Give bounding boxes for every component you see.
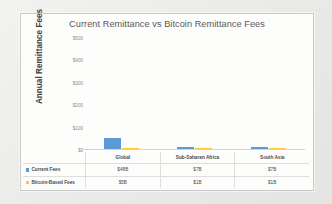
chart-data-table: Global Sub-Saharan Africa South Asia Cur… — [23, 152, 309, 186]
yellow-square-marker — [26, 181, 29, 184]
table-cell-current-southasia: $7B — [234, 164, 309, 175]
table-cell-bitcoin-ssa: $1B — [160, 177, 235, 188]
plot-area: $500$400$300$200$100$0 — [85, 38, 305, 150]
chart-frame: Current Remittance vs Bitcoin Remittance… — [20, 13, 314, 191]
y-axis-tick-300: $300 — [57, 80, 83, 85]
table-header-category-2: South Asia — [234, 152, 309, 163]
table-cell-bitcoin-global: $5B — [85, 177, 160, 188]
table-row: Current Fees $48B $7B $7B — [23, 163, 309, 175]
y-axis-tick-500: $500 — [57, 36, 83, 41]
chart-title: Current Remittance vs Bitcoin Remittance… — [21, 19, 313, 29]
table-cell-bitcoin-southasia: $1B — [234, 177, 309, 188]
bar-group-global — [85, 38, 158, 149]
legend-label-bitcoin-fees: Bitcoin-Based Fees — [31, 180, 75, 185]
bar-series-container — [85, 38, 305, 149]
legend-item-bitcoin-fees: Bitcoin-Based Fees — [23, 180, 85, 185]
table-cell-current-global: $48B — [85, 164, 160, 175]
y-axis-tick-labels: $500$400$300$200$100$0 — [57, 38, 83, 150]
y-axis-title: Annual Remittance Fees — [35, 7, 44, 107]
y-axis-tick-200: $200 — [57, 103, 83, 108]
legend-item-current-fees: Current Fees — [23, 167, 85, 172]
table-row: Global Sub-Saharan Africa South Asia — [23, 152, 309, 163]
bar-group-south-asia — [232, 38, 305, 149]
table-header-category-1: Sub-Saharan Africa — [160, 152, 235, 163]
bar-current-0[interactable] — [104, 138, 121, 149]
bar-group-sub-saharan-africa — [158, 38, 231, 149]
y-axis-tick-100: $100 — [57, 125, 83, 130]
table-cell-current-ssa: $7B — [160, 164, 235, 175]
legend-label-current-fees: Current Fees — [31, 167, 60, 172]
table-header-category-0: Global — [85, 152, 160, 163]
table-row: Bitcoin-Based Fees $5B $1B $1B — [23, 176, 309, 188]
y-axis-tick-400: $400 — [57, 58, 83, 63]
screenshot-page: Current Remittance vs Bitcoin Remittance… — [0, 0, 332, 204]
x-axis-line — [83, 149, 305, 150]
blue-square-marker — [26, 168, 29, 171]
